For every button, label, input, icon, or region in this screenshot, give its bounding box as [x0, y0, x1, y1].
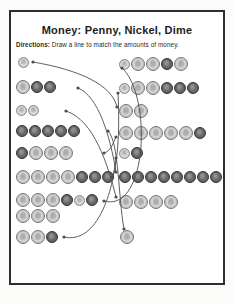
nickel-coin [164, 195, 178, 209]
penny-coin [132, 171, 144, 183]
right-coin-row-5 [119, 145, 144, 161]
nickel-coin [174, 57, 188, 71]
nickel-coin [164, 126, 178, 140]
penny-coin [174, 82, 186, 94]
nickel-coin [149, 195, 163, 209]
nickel-coin [146, 57, 160, 71]
penny-coin [187, 82, 199, 94]
penny-coin [145, 171, 157, 183]
penny-coin [158, 171, 170, 183]
dime-coin [119, 83, 130, 94]
nickel-coin [120, 230, 134, 244]
penny-coin [210, 171, 222, 183]
nickel-coin [119, 195, 133, 209]
penny-coin [171, 171, 183, 183]
penny-coin [161, 58, 173, 70]
nickel-coin [131, 57, 145, 71]
nickel-coin [119, 104, 133, 118]
nickel-coin [119, 126, 133, 140]
nickel-coin [134, 104, 148, 118]
right-coin-row-1 [119, 56, 189, 72]
penny-coin [184, 171, 196, 183]
right-coin-row-6 [119, 169, 223, 185]
nickel-coin [146, 81, 160, 95]
nickel-coin [134, 126, 148, 140]
dime-coin [119, 59, 130, 70]
right-coin-row-8 [120, 229, 135, 245]
penny-coin [131, 147, 143, 159]
right-coin-row-2 [119, 80, 200, 96]
right-coin-row-7 [119, 194, 179, 210]
penny-coin [197, 171, 209, 183]
right-coin-column [0, 0, 233, 304]
penny-coin [194, 127, 206, 139]
nickel-coin [179, 126, 193, 140]
right-coin-row-3 [119, 103, 149, 119]
penny-coin [119, 171, 131, 183]
penny-coin [161, 82, 173, 94]
right-coin-row-4 [119, 125, 207, 141]
nickel-coin [149, 126, 163, 140]
dime-coin [119, 148, 130, 159]
nickel-coin [131, 81, 145, 95]
nickel-coin [134, 195, 148, 209]
